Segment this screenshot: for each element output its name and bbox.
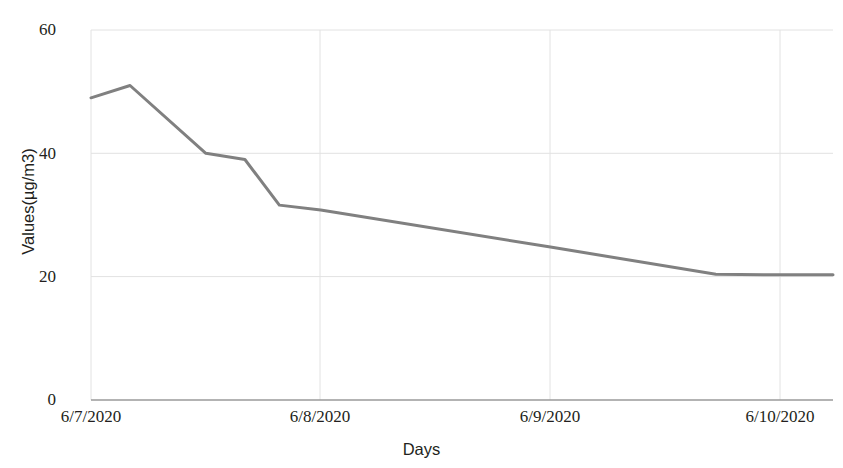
x-tick-6-10-2020: 6/10/2020: [710, 407, 843, 426]
gridlines: [91, 30, 833, 277]
y-tick-0: 0: [2, 391, 56, 408]
line-chart: 60 40 20 0 6/7/2020 6/8/2020 6/9/2020 6/…: [0, 0, 843, 468]
data-line-values: [91, 86, 833, 275]
y-axis-title: Values(µg/m3): [19, 112, 38, 292]
x-tick-6-9-2020: 6/9/2020: [480, 407, 620, 426]
y-tick-60: 60: [2, 21, 56, 38]
vertical-gridlines: [91, 30, 780, 400]
x-tick-6-7-2020: 6/7/2020: [21, 407, 161, 426]
x-tick-6-8-2020: 6/8/2020: [250, 407, 390, 426]
plot-area: [0, 0, 843, 468]
x-axis-title: Days: [0, 440, 843, 459]
